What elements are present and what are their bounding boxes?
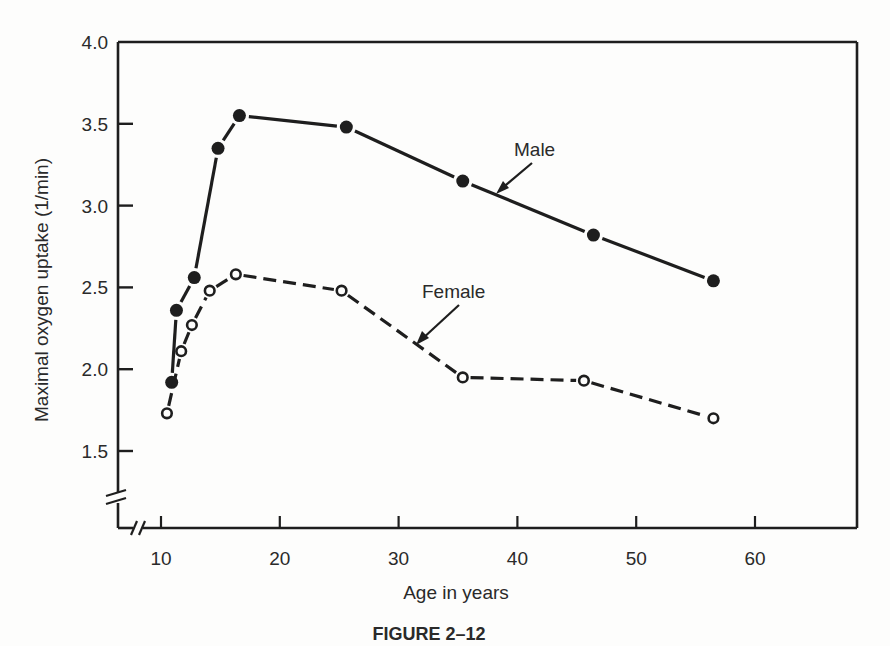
series-segment	[172, 320, 176, 373]
series-segment	[249, 117, 337, 126]
x-axis-title: Age in years	[403, 582, 509, 603]
data-point-open-circle-icon	[187, 320, 197, 330]
series-segment	[181, 286, 190, 302]
x-tick-label: 30	[388, 548, 409, 569]
arrow-icon	[496, 163, 532, 194]
y-axis-title: Maximal oxygen uptake (1/min)	[31, 158, 52, 422]
y-tick-label: 3.0	[82, 196, 108, 217]
x-tick-label: 10	[150, 548, 171, 569]
series-segment	[471, 378, 577, 381]
data-point-open-circle-icon	[231, 270, 241, 280]
data-point-open-circle-icon	[458, 373, 468, 383]
data-point-filled-circle-icon	[707, 274, 720, 287]
data-point-filled-circle-icon	[188, 271, 201, 284]
series-segment	[184, 332, 189, 344]
series-segment	[472, 185, 585, 232]
y-axis-break-icon	[106, 490, 126, 504]
series-segment	[195, 298, 206, 319]
series-segment	[348, 295, 456, 373]
series-segment	[223, 124, 234, 141]
y-tick-label: 1.5	[82, 441, 108, 462]
male-label: Male	[514, 139, 555, 160]
data-point-filled-circle-icon	[340, 121, 353, 134]
series-layer	[162, 109, 720, 423]
y-tick-label: 4.0	[82, 32, 108, 53]
data-point-open-circle-icon	[579, 376, 589, 386]
series-segment	[196, 158, 216, 269]
y-tick-label: 2.0	[82, 359, 108, 380]
series-segment	[355, 131, 454, 177]
x-axis-break-icon	[131, 521, 145, 535]
male-annotation: Male	[496, 139, 555, 194]
y-tick-label: 2.5	[82, 277, 108, 298]
female-label: Female	[422, 281, 485, 302]
x-tick-label: 50	[626, 548, 647, 569]
data-point-filled-circle-icon	[170, 304, 183, 317]
data-point-filled-circle-icon	[587, 229, 600, 242]
series-segment	[602, 238, 704, 277]
data-point-open-circle-icon	[709, 413, 719, 423]
data-point-open-circle-icon	[205, 286, 215, 296]
y-tick-label: 3.5	[82, 114, 108, 135]
data-point-filled-circle-icon	[233, 109, 246, 122]
y-axis: 1.52.02.53.03.54.0	[82, 32, 133, 462]
data-point-open-circle-icon	[176, 346, 186, 356]
data-point-open-circle-icon	[162, 409, 172, 419]
series-segment	[244, 276, 334, 290]
data-point-open-circle-icon	[337, 286, 347, 296]
figure-caption: FIGURE 2–12	[372, 624, 485, 644]
female-annotation: Female	[416, 281, 485, 345]
x-tick-label: 60	[744, 548, 765, 569]
data-point-filled-circle-icon	[456, 175, 469, 188]
x-tick-label: 40	[507, 548, 528, 569]
x-tick-label: 20	[269, 548, 290, 569]
x-axis: 102030405060	[150, 516, 765, 569]
series-segment	[591, 383, 706, 416]
chart: 1.52.02.53.03.54.0 102030405060 Maximal …	[0, 0, 890, 646]
series-segment	[216, 278, 229, 286]
arrow-icon	[416, 305, 459, 345]
series-male	[165, 109, 720, 389]
data-point-filled-circle-icon	[212, 142, 225, 155]
